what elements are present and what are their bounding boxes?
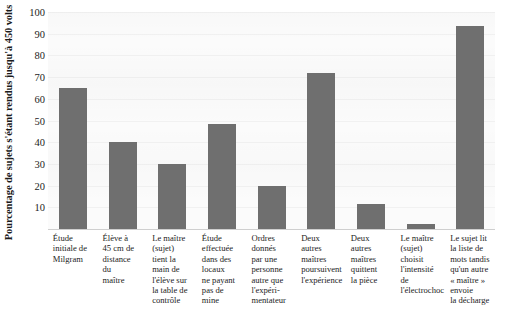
bar xyxy=(357,204,385,229)
y-axis-tick-10: 10 xyxy=(35,202,46,213)
bar xyxy=(208,124,236,229)
x-axis-category-label-line: l'expéri- xyxy=(252,285,305,295)
bar xyxy=(109,142,137,229)
x-axis-category-label-line: Le maître xyxy=(401,233,454,243)
y-axis-tick-90: 90 xyxy=(35,28,46,39)
x-axis-category-label-line: Étude xyxy=(53,233,106,243)
x-axis-category-label-line: autres xyxy=(301,243,354,253)
x-axis-category-label-line: de xyxy=(401,275,454,285)
y-axis-tick-50: 50 xyxy=(35,115,46,126)
bar-series xyxy=(48,12,495,229)
x-axis-category-label-line: locaux xyxy=(202,264,255,274)
x-axis-category-label-line: (sujet) xyxy=(152,243,205,253)
x-axis-category-label-line: qu'un autre xyxy=(450,264,503,274)
x-axis-category-label-line: dans des xyxy=(202,254,255,264)
x-axis-category-label-line: autres xyxy=(351,243,404,253)
plot-area xyxy=(48,12,495,229)
x-axis-line xyxy=(48,229,495,230)
bar xyxy=(307,73,335,229)
y-axis-tick-30: 30 xyxy=(35,158,46,169)
x-axis-category-label-line: l'intensité xyxy=(401,264,454,274)
x-axis-category-label-line: par une xyxy=(252,254,305,264)
y-axis-tick-70: 70 xyxy=(35,72,46,83)
x-axis-category-label-line: l'électrochoc xyxy=(401,285,454,295)
x-axis-category-label-line: Étude xyxy=(202,233,255,243)
x-axis-category-label-line: maîtres xyxy=(301,254,354,264)
x-axis-category-label-line: effectuée xyxy=(202,243,255,253)
x-axis-category-label-line: personne xyxy=(252,264,305,274)
x-axis-category-label-line: distance xyxy=(103,254,156,264)
x-axis-category-label: Élève à45 cm dedistancedumaître xyxy=(103,233,156,285)
x-axis-category-label-line: Élève à xyxy=(103,233,156,243)
x-axis-category-label-line: autre que xyxy=(252,275,305,285)
x-axis-category-label-line: l'expérience xyxy=(301,275,354,285)
x-axis-category-label: Deuxautresmaîtresquittentla pièce xyxy=(351,233,404,285)
x-axis-category-label-line: Ordres xyxy=(252,233,305,243)
x-axis-category-label-line: contrôle xyxy=(152,295,205,305)
x-axis-category-label-line: 45 cm de xyxy=(103,243,156,253)
x-axis-category-label-line: Le sujet lit xyxy=(450,233,503,243)
x-axis-category-label-line: envoie xyxy=(450,285,503,295)
x-axis-category-label-line: main de xyxy=(152,264,205,274)
y-axis-tick-100: 100 xyxy=(29,7,45,18)
x-axis-category-label-line: mine xyxy=(202,295,255,305)
y-axis-tick-20: 20 xyxy=(35,180,46,191)
x-axis-category-label-line: initiale de xyxy=(53,243,106,253)
y-axis-title-text: Pourcentage de sujets s'étant rendus jus… xyxy=(4,5,15,240)
y-axis-title: Pourcentage de sujets s'étant rendus jus… xyxy=(0,0,18,245)
x-axis-category-label-line: mots tandis xyxy=(450,254,503,264)
bar xyxy=(59,88,87,229)
x-axis-category-label: Le sujet litla liste demots tandisqu'un … xyxy=(450,233,503,306)
bar xyxy=(456,26,484,229)
x-axis-category-label-line: la table de xyxy=(152,285,205,295)
x-axis-category-label: Le maître(sujet)choisitl'intensitédel'él… xyxy=(401,233,454,295)
x-axis-category-label-line: maîtres xyxy=(351,254,404,264)
x-axis-category-label-line: maître xyxy=(103,275,156,285)
x-axis-category-label-line: quittent xyxy=(351,264,404,274)
x-axis-category-label-line: tient la xyxy=(152,254,205,264)
x-axis-category-label-line: choisit xyxy=(401,254,454,264)
x-axis-category-label-line: Deux xyxy=(301,233,354,243)
x-axis-category-labels: Étudeinitiale deMilgramÉlève à45 cm dedi… xyxy=(48,233,495,323)
y-axis-tick-60: 60 xyxy=(35,93,46,104)
y-axis-tick-labels: 102030405060708090100 xyxy=(18,0,48,245)
bar-chart-figure: Pourcentage de sujets s'étant rendus jus… xyxy=(0,0,506,325)
x-axis-category-label-line: du xyxy=(103,264,156,274)
x-axis-category-label: Ordresdonnéspar unepersonneautre quel'ex… xyxy=(252,233,305,306)
x-axis-category-label-line: « maître » xyxy=(450,275,503,285)
x-axis-category-label-line: l'élève sur xyxy=(152,275,205,285)
x-axis-category-label-line: pas de xyxy=(202,285,255,295)
y-axis-tick-80: 80 xyxy=(35,50,46,61)
bar xyxy=(258,186,286,229)
x-axis-category-label: Étudeeffectuéedans deslocauxne payantpas… xyxy=(202,233,255,306)
x-axis-category-label: Deuxautresmaîtrespoursuiventl'expérience xyxy=(301,233,354,285)
x-axis-category-label-line: poursuivent xyxy=(301,264,354,274)
x-axis-category-label-line: (sujet) xyxy=(401,243,454,253)
x-axis-category-label-line: la pièce xyxy=(351,275,404,285)
x-axis-category-label-line: Le maître xyxy=(152,233,205,243)
x-axis-category-label-line: Deux xyxy=(351,233,404,243)
x-axis-category-label-line: mentateur xyxy=(252,295,305,305)
x-axis-category-label-line: ne payant xyxy=(202,275,255,285)
bar xyxy=(158,164,186,229)
x-axis-category-label: Le maître(sujet)tient lamain del'élève s… xyxy=(152,233,205,306)
x-axis-category-label-line: la liste de xyxy=(450,243,503,253)
y-axis-tick-40: 40 xyxy=(35,137,46,148)
x-axis-category-label-line: donnés xyxy=(252,243,305,253)
x-axis-category-label-line: la décharge xyxy=(450,295,503,305)
x-axis-category-label: Étudeinitiale deMilgram xyxy=(53,233,106,264)
x-axis-category-label-line: Milgram xyxy=(53,254,106,264)
